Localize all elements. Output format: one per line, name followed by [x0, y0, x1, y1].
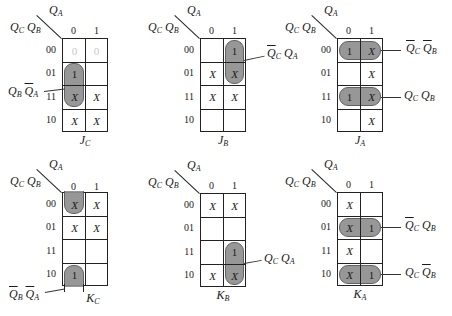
row-label-01: 01 [311, 221, 331, 232]
term-leader-line [244, 260, 262, 264]
cell: X [85, 109, 108, 133]
col-var-label: QA [187, 3, 201, 18]
cell: X [201, 62, 224, 86]
cell: X [63, 86, 86, 110]
row-label-11: 11 [174, 246, 194, 257]
row-label-00: 00 [36, 198, 56, 209]
kmap-grid: X X 1 X X [200, 193, 246, 287]
cell: X [201, 264, 224, 288]
row-label-01: 01 [174, 67, 194, 78]
cell: 1 [360, 263, 383, 287]
kmap-ka: QA QC QB 0 1 00 01 11 10 X X 1 X X 1 QC … [275, 154, 425, 312]
term-label: QB QA [8, 84, 38, 99]
cell: 0 [85, 39, 108, 63]
cell [223, 217, 246, 241]
term-leader-line [381, 227, 401, 228]
cell: X [338, 240, 361, 264]
col-label-0: 0 [200, 25, 223, 36]
cell [338, 109, 361, 133]
cell: X [338, 216, 361, 240]
kmap-grid: 1 X X X X [200, 38, 246, 132]
cell [85, 263, 108, 287]
cell [360, 240, 383, 264]
col-label-1: 1 [360, 25, 383, 36]
cell [338, 62, 361, 86]
cell: X [201, 86, 224, 110]
col-label-1: 1 [360, 179, 383, 190]
col-var-label: QA [324, 157, 338, 172]
kmap-ja: QA QC QB 0 1 00 01 11 10 1 X X 1 X X QC … [275, 0, 425, 158]
function-name: JA [337, 133, 383, 148]
cell: 1 [223, 241, 246, 265]
cell [63, 240, 86, 264]
cell: X [223, 86, 246, 110]
cell: 1 [360, 216, 383, 240]
cell: X [338, 193, 361, 217]
row-label-10: 10 [311, 114, 331, 125]
term-label: QC QB [406, 41, 437, 56]
cell: X [85, 193, 108, 217]
row-label-10: 10 [36, 268, 56, 279]
col-var-label: QA [49, 157, 63, 172]
cell: X [360, 39, 383, 63]
term-leader-line [381, 97, 401, 98]
cell: 1 [223, 39, 246, 63]
kmap-grid: 1 X X 1 X X [337, 38, 383, 132]
term-label: QB QA [9, 287, 39, 302]
row-label-11: 11 [311, 245, 331, 256]
col-label-1: 1 [223, 25, 246, 36]
kmap-jb: QA QC QB 0 1 00 01 11 10 1 X X X X QC QA… [138, 0, 288, 158]
row-var-label: QC QB [285, 174, 316, 189]
function-name: KA [337, 287, 383, 302]
row-label-01: 01 [36, 67, 56, 78]
cell: X [63, 193, 86, 217]
cell: X [338, 263, 361, 287]
cell: X [201, 194, 224, 218]
row-label-00: 00 [36, 44, 56, 55]
row-label-11: 11 [36, 245, 56, 256]
col-label-0: 0 [337, 179, 360, 190]
kmap-grid: 0 0 1 X X X X [62, 38, 108, 132]
row-label-11: 11 [36, 91, 56, 102]
cell: X [63, 109, 86, 133]
cell: 1 [338, 86, 361, 110]
row-var-label: QC QB [148, 20, 179, 35]
term-label: QC QB [405, 218, 436, 233]
cell [223, 109, 246, 133]
row-label-01: 01 [311, 67, 331, 78]
row-label-00: 00 [311, 198, 331, 209]
function-name: KC [70, 291, 116, 306]
cell: X [360, 109, 383, 133]
cell: X [85, 216, 108, 240]
row-label-00: 00 [174, 199, 194, 210]
col-label-1: 1 [85, 181, 108, 192]
cell [201, 217, 224, 241]
term-leader-line [381, 50, 401, 51]
row-label-10: 10 [311, 268, 331, 279]
col-label-1: 1 [223, 180, 246, 191]
cell: X [223, 62, 246, 86]
cell: X [223, 194, 246, 218]
row-label-01: 01 [174, 222, 194, 233]
col-var-label: QA [49, 3, 63, 18]
cell: X [63, 216, 86, 240]
row-var-label: QC QB [10, 174, 41, 189]
cell [201, 39, 224, 63]
col-var-label: QA [187, 158, 201, 173]
cell: X [85, 86, 108, 110]
row-var-label: QC QB [285, 20, 316, 35]
term-label: QC QB [404, 88, 435, 103]
row-label-00: 00 [311, 44, 331, 55]
cell [85, 240, 108, 264]
row-label-10: 10 [174, 269, 194, 280]
cell: 0 [63, 39, 86, 63]
function-name: JB [200, 133, 246, 148]
cell [201, 109, 224, 133]
term-leader-line [381, 274, 401, 275]
kmap-jc: QA QC QB 0 1 00 01 11 10 0 0 1 X X X X Q… [0, 0, 150, 158]
function-name: JC [62, 133, 108, 148]
col-label-1: 1 [85, 25, 108, 36]
term-leader-line [244, 56, 265, 61]
function-name: KB [200, 288, 246, 303]
col-label-0: 0 [62, 25, 85, 36]
